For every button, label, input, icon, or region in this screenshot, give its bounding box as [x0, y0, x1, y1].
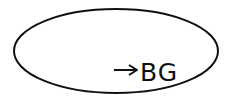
- diagram-canvas: BG: [0, 0, 225, 99]
- ellipse-node: [14, 9, 218, 93]
- label-text: BG: [140, 58, 178, 87]
